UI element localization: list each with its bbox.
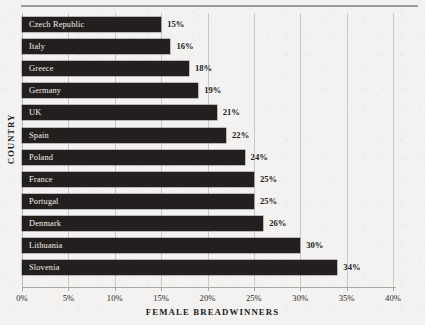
x-tick-15pct — [161, 287, 162, 291]
x-tick-5pct — [68, 287, 69, 291]
bar[interactable] — [22, 172, 254, 187]
bar-value-label: 24% — [251, 150, 268, 165]
x-tick-0pct — [22, 287, 23, 291]
bar[interactable] — [22, 260, 337, 275]
x-tick-40pct — [393, 287, 394, 291]
x-tick-25pct — [254, 287, 255, 291]
bar-category-label: Slovenia — [29, 260, 60, 275]
bar-category-label: Poland — [29, 150, 53, 165]
bar-category-label: Spain — [29, 128, 49, 143]
x-tick-label: 30% — [292, 293, 308, 303]
bar-category-label: Czech Republic — [29, 17, 84, 32]
x-tick-label: 20% — [200, 293, 216, 303]
bar-value-label: 26% — [269, 216, 286, 231]
bar-row[interactable]: Portugal25% — [22, 194, 393, 209]
x-tick-35pct — [347, 287, 348, 291]
x-tick-label: 0% — [16, 293, 27, 303]
bar-row[interactable]: Denmark26% — [22, 216, 393, 231]
x-axis-title: FEMALE BREADWINNERS — [0, 307, 425, 317]
bar-category-label: Denmark — [29, 216, 61, 231]
bar[interactable] — [22, 128, 226, 143]
bar-value-label: 25% — [260, 194, 277, 209]
bar-row[interactable]: Germany19% — [22, 83, 393, 98]
bar-row[interactable]: Lithuania30% — [22, 238, 393, 253]
x-tick-30pct — [300, 287, 301, 291]
top-divider-rule — [21, 5, 418, 7]
bar-value-label: 21% — [223, 105, 240, 120]
bar-row[interactable]: UK21% — [22, 105, 393, 120]
x-tick-10pct — [115, 287, 116, 291]
x-axis-line — [22, 287, 396, 288]
bar-category-label: Germany — [29, 83, 61, 98]
bar-value-label: 16% — [176, 39, 193, 54]
bar-row[interactable]: Greece18% — [22, 61, 393, 76]
x-tick-label: 15% — [153, 293, 169, 303]
bar-category-label: France — [29, 172, 53, 187]
bar[interactable] — [22, 238, 300, 253]
bar-category-label: Portugal — [29, 194, 59, 209]
bar-row[interactable]: Poland24% — [22, 150, 393, 165]
bar-row[interactable]: Czech Republic15% — [22, 17, 393, 32]
bar-value-label: 34% — [343, 260, 360, 275]
x-tick-label: 25% — [246, 293, 262, 303]
bar-value-label: 22% — [232, 128, 249, 143]
gridline-40pct — [393, 13, 394, 287]
bar-category-label: Lithuania — [29, 238, 62, 253]
bar-value-label: 15% — [167, 17, 184, 32]
bar-value-label: 19% — [204, 83, 221, 98]
bar-row[interactable]: Italy16% — [22, 39, 393, 54]
bar-row[interactable]: France25% — [22, 172, 393, 187]
bar[interactable] — [22, 105, 217, 120]
bar-chart-figure: Czech Republic15%Italy16%Greece18%German… — [0, 0, 425, 325]
x-tick-label: 40% — [385, 293, 401, 303]
x-tick-label: 35% — [339, 293, 355, 303]
y-axis-title: COUNTRY — [6, 104, 16, 174]
bar-value-label: 30% — [306, 238, 323, 253]
bar-value-label: 25% — [260, 172, 277, 187]
bar-value-label: 18% — [195, 61, 212, 76]
bar-row[interactable]: Spain22% — [22, 128, 393, 143]
bar[interactable] — [22, 150, 245, 165]
plot-area: Czech Republic15%Italy16%Greece18%German… — [22, 13, 393, 287]
bar-row[interactable]: Slovenia34% — [22, 260, 393, 275]
x-tick-20pct — [208, 287, 209, 291]
x-tick-label: 10% — [107, 293, 123, 303]
x-tick-label: 5% — [63, 293, 74, 303]
bar-category-label: Italy — [29, 39, 45, 54]
bar-category-label: UK — [29, 105, 41, 120]
bar-category-label: Greece — [29, 61, 54, 76]
